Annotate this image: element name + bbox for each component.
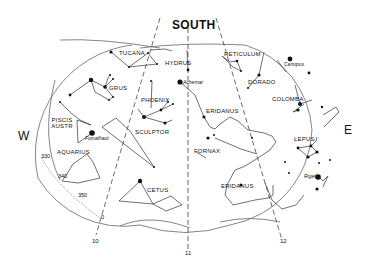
hour-label-11: 11 <box>185 250 191 256</box>
constellation-piscis-austr: PISCIS AUSTR <box>50 117 74 129</box>
constellation-fornax: FORNAX <box>194 148 220 154</box>
constellation-colomba: COLOMBA <box>272 96 303 102</box>
stars <box>59 50 331 190</box>
constellation-lines <box>60 49 339 211</box>
sky-outlines <box>35 40 312 233</box>
hour-label-12: 12 <box>280 238 287 244</box>
east-direction-label: E <box>344 124 352 136</box>
constellation-lepus: LEPUS <box>294 136 315 142</box>
ecliptic-tick-340: 340 <box>58 174 67 180</box>
rigel-star <box>315 174 321 180</box>
star-label-canopus: Canopus <box>284 62 304 67</box>
achernar-star <box>177 79 182 84</box>
constellation-eridanus-lower: ERIDANUS <box>221 183 254 189</box>
constellation-dorado: DORADO <box>248 79 276 85</box>
constellation-sculptor: SCULPTOR <box>135 129 169 135</box>
constellation-grus: GRUS <box>109 85 127 91</box>
hour-label-10: 10 <box>92 238 99 244</box>
star-chart <box>0 0 368 270</box>
ecliptic-tick-330: 330 <box>41 154 50 160</box>
constellation-eridanus-upper: ERIDANUS <box>206 108 239 114</box>
constellation-tucana: TUCANA <box>119 50 145 56</box>
chart-title: SOUTH <box>172 19 216 31</box>
west-direction-label: W <box>18 130 29 142</box>
constellation-reticulum: RETICULUM <box>224 51 261 57</box>
constellation-hydrus: HYDRUS <box>165 60 192 66</box>
constellation-aquarius: AQUARIUS <box>57 149 90 155</box>
star-label-rigel: Rigel <box>304 174 315 179</box>
constellation-cetus: CETUS <box>147 187 168 193</box>
star-label-achernar: Achernar <box>183 80 203 85</box>
constellation-phoenix: PHOENIX <box>141 97 169 103</box>
ecliptic-tick-350: 350 <box>78 193 87 199</box>
star-label-fomalhaut: Fomalhaut <box>85 136 109 141</box>
ecliptic-tick-0: 0 <box>101 215 104 221</box>
